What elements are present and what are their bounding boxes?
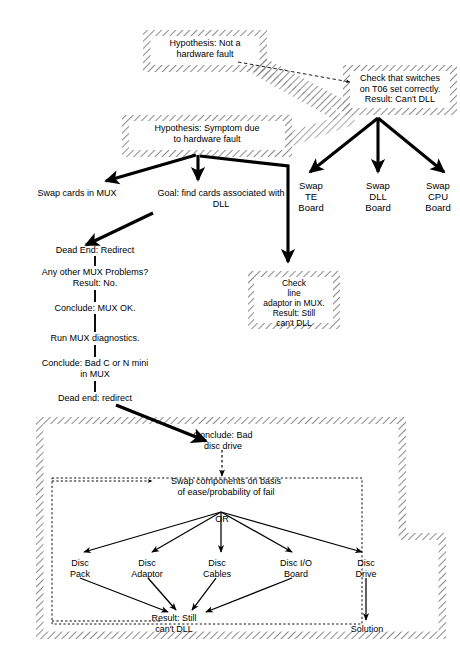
node-run-mux-diagnostics: Run MUX diagnostics.: [22, 333, 168, 344]
node-dead-end-redirect-1: Dead End: Redirect: [25, 245, 165, 256]
node-solution: Solution: [340, 624, 394, 635]
node-swap-components: Swap components on basis of ease/probabi…: [152, 476, 300, 497]
diagram-canvas: Hypothesis: Not a hardware fault Check t…: [0, 0, 460, 670]
box-label-hypothesis-symptom-hardware: Hypothesis: Symptom due to hardware faul…: [129, 123, 285, 144]
node-disc-io-board: Disc I/O Board: [268, 558, 324, 579]
node-swap-cpu-board: Swap CPU Board: [418, 180, 458, 214]
box-label-check-switches-t06: Check that switches on T06 set correctly…: [350, 73, 450, 105]
node-swap-cards-in-mux: Swap cards in MUX: [22, 188, 132, 199]
node-any-other-mux-problems: Any other MUX Problems? Result: No.: [17, 267, 173, 288]
box-label-hypothesis-not-hardware: Hypothesis: Not a hardware fault: [151, 38, 259, 59]
node-conclude-bad-c-or-n-mini: Conclude: Bad C or N mini in MUX: [14, 358, 176, 379]
node-dead-end-redirect-2: Dead end: redirect: [25, 393, 165, 404]
node-disc-pack: Disc Pack: [58, 558, 102, 579]
node-or-connector: OR: [208, 514, 236, 525]
node-swap-dll-board: Swap DLL Board: [354, 180, 402, 214]
node-swap-te-board: Swap TE Board: [288, 180, 334, 214]
node-disc-drive: Disc Drive: [344, 558, 388, 579]
node-goal-find-cards: Goal: find cards associated with DLL: [131, 188, 311, 209]
node-disc-adaptor: Disc Adaptor: [120, 558, 174, 579]
edge-goal-to-deadend: [86, 213, 153, 245]
box-label-check-line-adaptor: Check line adaptor in MUX. Result: Still…: [252, 278, 336, 328]
hatched-ribbon-group: [248, 58, 356, 258]
node-conclude-mux-ok: Conclude: MUX OK.: [25, 303, 165, 314]
node-conclude-bad-disc-drive: Conclude: Bad disc drive: [178, 430, 268, 451]
node-result-still-cant-dll: Result: Still can't DLL: [142, 613, 206, 634]
node-disc-cables: Disc Cables: [192, 558, 242, 579]
